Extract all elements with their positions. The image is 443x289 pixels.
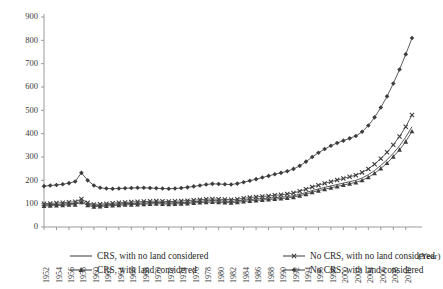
series-4-marker-diamond [291,167,296,172]
series-4-marker-diamond [241,180,246,185]
series-4-marker-diamond [248,179,253,184]
legend-label-2: No CRS, with no land considered [310,251,435,261]
series-4-marker-diamond [385,94,390,99]
series-4-marker-diamond [48,183,53,188]
series-4-marker-diamond [198,183,203,188]
series-2-marker-x [379,157,383,161]
series-4-marker-diamond [254,177,259,182]
line-chart: 0100200300400500600700800900195219541956… [0,0,443,289]
series-4-marker-diamond [135,186,140,191]
series-4-marker-diamond [42,184,47,189]
series-4-marker-diamond [117,186,122,191]
series-4-marker-diamond [60,182,65,187]
series-2-marker-x [304,187,308,191]
series-4-marker-diamond [329,144,334,149]
series-4-marker-diamond [260,175,265,180]
x-tick-label: 1952 [42,267,51,283]
series-2-marker-x [410,113,414,117]
series-4-marker-diamond [98,186,103,191]
x-tick-label: 1986 [254,267,263,283]
series-4-marker-diamond [266,174,271,179]
series-4-marker-diamond [235,181,240,186]
series-4-marker-diamond [179,186,184,191]
y-tick-label: 300 [25,151,38,161]
series-4-marker-diamond [110,186,115,191]
series-4-marker-diamond [104,186,109,191]
series-4-marker-diamond [347,136,352,141]
y-tick-label: 600 [25,81,38,91]
series-4-marker-diamond [279,171,284,176]
legend-item-1: CRS, with no land considered [70,251,209,261]
y-tick-label: 800 [25,35,38,45]
y-tick-label: 100 [25,198,38,208]
series-line-1 [44,127,412,206]
y-axis-ticks: 0100200300400500600700800900 [25,11,44,231]
series-4-marker-diamond [391,81,396,86]
y-tick-label: 0 [34,221,38,231]
series-line-4 [44,38,412,189]
legend-label-3: CRS, with land considered [97,265,197,275]
series-4-marker-diamond [322,147,327,152]
series-4-marker-diamond [204,182,209,187]
series-4-marker-diamond [148,186,153,191]
series-line-3 [44,131,412,206]
series-4-marker-diamond [54,183,59,188]
series-2-marker-x [366,167,370,171]
series-4-marker-diamond [210,182,215,187]
series-4-marker-diamond [67,181,72,186]
series-4-marker-diamond [272,172,277,177]
legend-item-3: CRS, with land considered [70,265,197,275]
x-tick-label: 1984 [242,267,251,283]
series-4-marker-diamond [397,67,402,72]
x-tick-label: 1982 [229,267,238,283]
series-2-marker-x [385,150,389,154]
series-2-marker-x [397,134,401,138]
chart-axes [44,14,422,227]
series-2-marker-x [404,125,408,129]
y-tick-label: 500 [25,105,38,115]
series-4-marker-diamond [129,186,134,191]
series-1 [44,127,412,206]
series-4-marker-diamond [403,52,408,57]
series-4-marker-diamond [285,169,290,174]
series-4-marker-diamond [341,138,346,143]
y-tick-label: 200 [25,175,38,185]
chart-legend: CRS, with no land consideredNo CRS, with… [70,251,435,275]
series-4-marker-diamond [166,186,171,191]
series-3 [42,129,415,209]
x-tick-label: 1956 [67,267,76,283]
x-tick-label: 1980 [217,267,226,283]
legend-label-1: CRS, with no land considered [97,251,209,261]
series-4-marker-diamond [154,186,159,191]
series-4-marker-diamond [173,186,178,191]
chart-container: 0100200300400500600700800900195219541956… [0,0,443,289]
series-4-marker-diamond [191,184,196,189]
series-4-marker-diamond [123,186,128,191]
series-2 [42,113,414,207]
series-4-marker-diamond [335,141,340,146]
series-2-marker-x [391,143,395,147]
y-tick-label: 900 [25,11,38,21]
legend-item-2: No CRS, with no land considered [283,251,435,261]
series-4-marker-diamond [141,186,146,191]
series-line-2 [44,115,412,204]
series-4-marker-diamond [223,182,228,187]
y-tick-label: 400 [25,128,38,138]
x-tick-label: 1978 [204,267,213,283]
series-2-marker-x [360,170,364,174]
x-tick-label: 1990 [279,267,288,283]
x-tick-label: 1988 [267,267,276,283]
x-tick-label: 1954 [55,267,64,283]
series-4-marker-diamond [379,105,384,110]
series-4-marker-diamond [229,182,234,187]
series-4 [42,36,415,191]
series-4-marker-diamond [185,185,190,190]
series-4-marker-diamond [216,182,221,187]
series-2-marker-x [372,162,376,166]
legend-label-4: No CRS, with land considered [310,265,424,275]
y-tick-label: 700 [25,58,38,68]
series-4-marker-diamond [160,186,165,191]
series-4-marker-diamond [410,36,415,41]
